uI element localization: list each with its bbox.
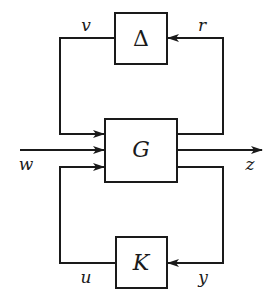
delta-block: Δ [115,13,167,64]
signal-r-label: r [198,15,207,35]
signal-y-label: y [197,267,208,287]
signal-z-label: z [245,154,256,174]
controller-block: K [116,237,167,288]
signal-w-label: w [19,154,34,174]
plant-block: G [105,119,177,182]
signal-u-label: u [81,267,92,287]
plant-label: G [132,137,150,162]
block-diagram: Δ G K v r w z u y [0,0,268,302]
controller-label: K [132,250,151,275]
delta-label: Δ [133,26,149,51]
signal-v-label: v [81,15,91,35]
